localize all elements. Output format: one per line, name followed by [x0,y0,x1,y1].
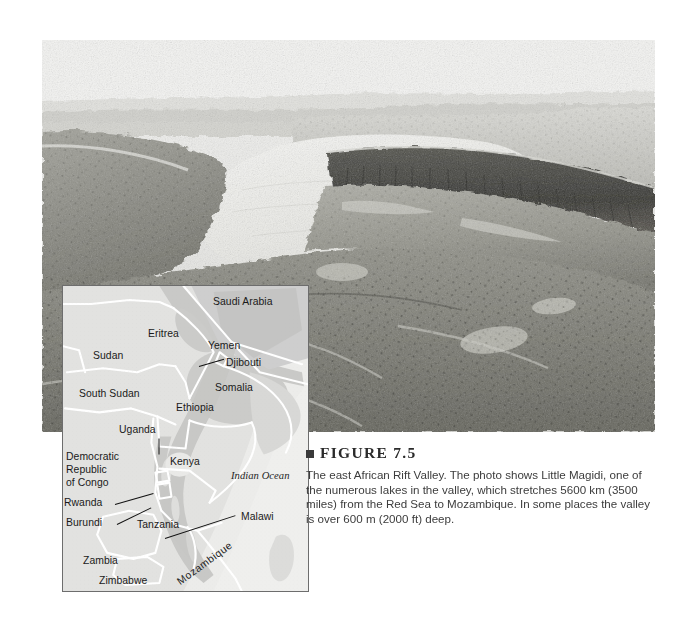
map-label-uganda: Uganda [119,424,156,436]
figure-heading: FIGURE 7.5 [306,444,662,462]
map-label-of-congo: of Congo [66,477,109,489]
map-label-republic: Republic [66,464,107,476]
map-label-ethiopia: Ethiopia [176,402,214,414]
map-label-rwanda: Rwanda [64,497,102,509]
figure-page: ©Emory Kristof/National Geographic Stock [0,0,676,626]
map-label-indian-ocean: Indian Ocean [231,470,290,482]
figure-caption-block: FIGURE 7.5 The east African Rift Valley.… [306,444,662,526]
map-label-eritrea: Eritrea [148,328,179,340]
map-label-kenya: Kenya [170,456,200,468]
map-label-sudan: Sudan [93,350,123,362]
map-illustration [63,286,308,591]
map-label-somalia: Somalia [215,382,253,394]
filled-square-icon [306,450,314,458]
map-label-djibouti: Djibouti [226,357,261,369]
map-label-democratic: Democratic [66,451,119,463]
map-label-tanzania: Tanzania [137,519,179,531]
figure-caption-text: The east African Rift Valley. The photo … [306,468,658,526]
uganda-leader-line [159,439,160,455]
map-label-malawi: Malawi [241,511,274,523]
locator-map: Saudi Arabia Eritrea Yemen Djibouti Suda… [62,285,309,592]
map-label-burundi: Burundi [66,517,102,529]
map-label-saudi-arabia: Saudi Arabia [213,296,273,308]
map-label-zambia: Zambia [83,555,118,567]
figure-number: FIGURE 7.5 [320,444,417,462]
map-label-zimbabwe: Zimbabwe [99,575,147,587]
map-label-yemen: Yemen [208,340,240,352]
map-label-south-sudan: South Sudan [79,388,140,400]
